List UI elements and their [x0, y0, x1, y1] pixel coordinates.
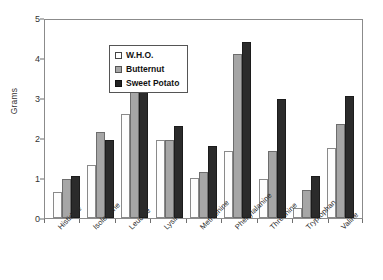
legend-swatch-who [115, 52, 122, 59]
bar [190, 178, 199, 218]
bar [87, 165, 96, 218]
legend-label-butternut: Butternut [126, 64, 164, 74]
bar [156, 140, 165, 218]
y-tick-label-5: 5 [0, 14, 40, 24]
bar-group [289, 20, 323, 218]
bar [96, 132, 105, 218]
bar [302, 190, 311, 218]
bar-group [49, 20, 83, 218]
legend-label-sweet-potato: Sweet Potato [126, 78, 179, 88]
bar [268, 151, 277, 218]
plot-area: W.H.O. Butternut Sweet Potato [44, 19, 363, 219]
bar [53, 192, 62, 218]
legend-item-sweet-potato: Sweet Potato [115, 78, 179, 88]
bar [242, 42, 251, 218]
y-tick-label-0: 0 [0, 214, 40, 224]
bar [345, 96, 354, 218]
bar [139, 87, 148, 218]
bar [121, 114, 130, 218]
legend-label-who: W.H.O. [126, 50, 153, 60]
bar [233, 54, 242, 218]
y-tick-label-3: 3 [0, 94, 40, 104]
bar [174, 126, 183, 218]
x-axis-labels: HistidineIsoleucineLeucineLysineMethioni… [44, 221, 363, 279]
legend-swatch-butternut [115, 66, 122, 73]
bar [199, 172, 208, 218]
y-tick-label-1: 1 [0, 174, 40, 184]
bar-group [221, 20, 255, 218]
bar-group [324, 20, 358, 218]
bar [130, 91, 139, 218]
y-tick-label-2: 2 [0, 134, 40, 144]
bar-chart: Grams 012345 W.H.O. Butternut Sweet Pota… [0, 0, 383, 280]
bar-group [255, 20, 289, 218]
legend-swatch-sweet-potato [115, 80, 122, 87]
bar-groups [45, 20, 362, 218]
y-tick-label-4: 4 [0, 54, 40, 64]
bar [165, 140, 174, 218]
legend: W.H.O. Butternut Sweet Potato [109, 45, 188, 93]
legend-item-who: W.H.O. [115, 50, 179, 60]
legend-item-butternut: Butternut [115, 64, 179, 74]
bar-group [186, 20, 220, 218]
bar [277, 99, 286, 218]
